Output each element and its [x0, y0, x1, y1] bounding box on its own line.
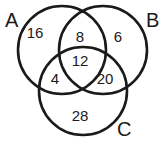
region-c-only: 28 — [72, 107, 89, 124]
region-a-c: 4 — [51, 70, 59, 87]
venn-diagram: A B C 16 8 6 12 4 20 28 — [0, 0, 167, 144]
region-a-b-c: 12 — [72, 52, 89, 69]
region-a-only: 16 — [27, 24, 44, 41]
circle-a — [18, 6, 106, 94]
region-b-c: 20 — [97, 70, 114, 87]
region-a-b: 8 — [76, 28, 84, 45]
region-b-only: 6 — [114, 28, 122, 45]
set-label-a: A — [5, 9, 19, 31]
set-label-c: C — [117, 118, 131, 140]
set-label-b: B — [146, 9, 159, 31]
